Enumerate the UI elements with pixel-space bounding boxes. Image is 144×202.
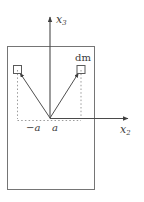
left-position-vector xyxy=(20,73,50,118)
left-mass-element-marker xyxy=(14,66,22,74)
right-mass-element-marker xyxy=(77,66,85,74)
pos-a-tick-label: a xyxy=(52,123,58,133)
right-position-vector xyxy=(50,73,79,118)
neg-a-tick-label: −a xyxy=(26,123,40,133)
vertical-axis-label-subscript: 3 xyxy=(62,19,66,27)
horizontal-axis-label: x2 xyxy=(120,124,131,137)
horizontal-axis-label-subscript: 2 xyxy=(126,129,130,137)
figure-canvas xyxy=(0,0,144,202)
vertical-axis-label: x3 xyxy=(56,14,67,27)
mass-element-label: dm xyxy=(75,53,91,63)
physics-figure: x3 x2 dm −a a xyxy=(0,0,144,202)
